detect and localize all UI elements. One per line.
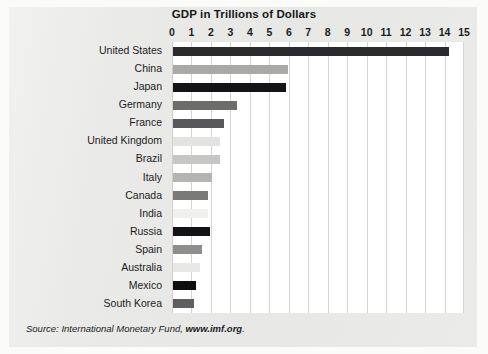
y-axis-category-labels: United StatesChinaJapanGermanyFranceUnit…: [10, 42, 168, 313]
y-label-united-kingdom: United Kingdom: [12, 134, 162, 146]
source-suffix: .: [242, 323, 245, 334]
page-margin-top: [0, 0, 488, 7]
bar-russia: [173, 227, 210, 236]
y-label-japan: Japan: [12, 80, 162, 92]
chart-title: GDP in Trillions of Dollars: [0, 8, 488, 20]
gridline-11: [386, 42, 387, 313]
bar-italy: [173, 173, 212, 182]
gridline-15: [463, 42, 464, 313]
bar-united-states: [173, 47, 449, 56]
y-label-mexico: Mexico: [12, 279, 162, 291]
y-label-china: China: [12, 62, 162, 74]
source-prefix: Source: International Monetary Fund,: [26, 323, 185, 334]
page-margin-bottom: [0, 347, 488, 354]
gridline-6: [289, 42, 290, 313]
y-label-australia: Australia: [12, 261, 162, 273]
bar-france: [173, 119, 224, 128]
gridline-7: [308, 42, 309, 313]
page-margin-right: [477, 0, 488, 354]
y-label-russia: Russia: [12, 225, 162, 237]
y-label-germany: Germany: [12, 98, 162, 110]
bar-china: [173, 65, 288, 74]
gridline-8: [328, 42, 329, 313]
gridline-14: [445, 42, 446, 313]
y-label-italy: Italy: [12, 171, 162, 183]
bar-germany: [173, 101, 237, 110]
bar-south-korea: [173, 299, 194, 308]
gridline-13: [425, 42, 426, 313]
bar-japan: [173, 83, 286, 92]
source-note: Source: International Monetary Fund, www…: [26, 323, 245, 334]
y-label-brazil: Brazil: [12, 152, 162, 164]
x-tick-label-15: 15: [452, 26, 476, 38]
chart-page: GDP in Trillions of Dollars 012345678910…: [0, 0, 488, 354]
bar-united-kingdom: [173, 137, 220, 146]
bar-canada: [173, 191, 208, 200]
gridline-9: [347, 42, 348, 313]
page-margin-left: [0, 0, 9, 354]
source-website: www.imf.org: [185, 323, 242, 334]
bar-india: [173, 209, 208, 218]
y-label-india: India: [12, 207, 162, 219]
bar-brazil: [173, 155, 220, 164]
gridline-10: [367, 42, 368, 313]
bar-mexico: [173, 281, 196, 290]
plot-area: [172, 42, 464, 313]
y-label-spain: Spain: [12, 243, 162, 255]
gridline-12: [406, 42, 407, 313]
y-label-south-korea: South Korea: [12, 297, 162, 309]
y-label-united-states: United States: [12, 44, 162, 56]
bar-spain: [173, 245, 202, 254]
bar-australia: [173, 263, 200, 272]
y-label-france: France: [12, 116, 162, 128]
y-label-canada: Canada: [12, 189, 162, 201]
x-axis-tick-labels: 0123456789101112131415: [0, 26, 488, 40]
